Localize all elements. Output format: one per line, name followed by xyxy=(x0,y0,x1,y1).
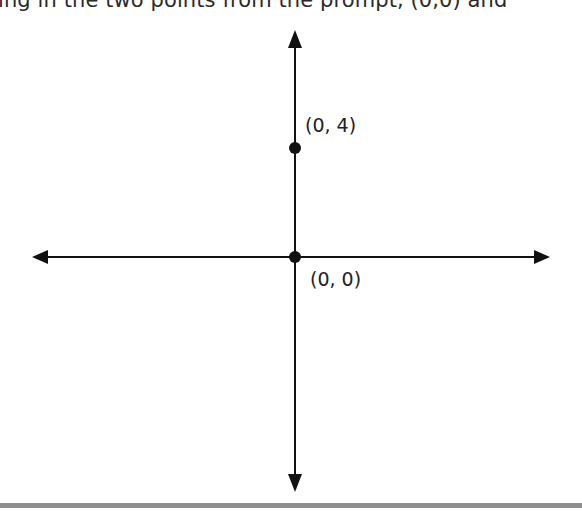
point-marker xyxy=(289,142,301,154)
x-axis-left-arrow-icon xyxy=(32,250,48,264)
y-axis-up-arrow-icon xyxy=(288,30,302,48)
point-label-0-4: (0, 4) xyxy=(305,114,356,136)
point-0-4: (0, 4) xyxy=(289,114,356,154)
point-marker xyxy=(289,251,301,263)
point-label-0-0: (0, 0) xyxy=(310,268,361,290)
bottom-divider xyxy=(0,503,582,508)
y-axis-down-arrow-icon xyxy=(288,474,302,492)
coordinate-plane: (0, 4) (0, 0) xyxy=(0,0,582,528)
x-axis-right-arrow-icon xyxy=(534,250,550,264)
